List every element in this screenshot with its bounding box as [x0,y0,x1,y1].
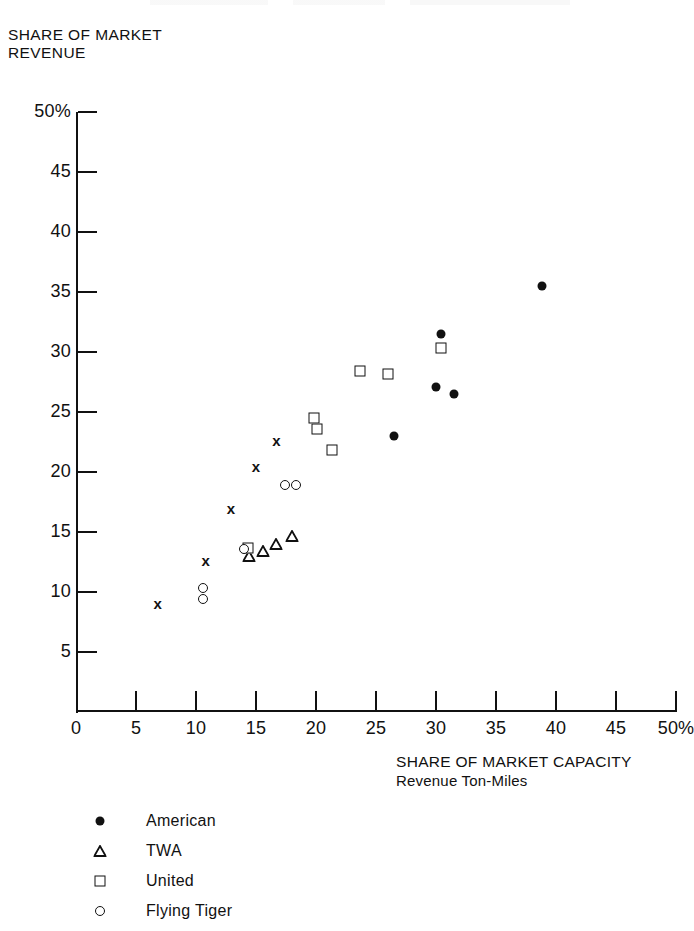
y-tick-label-25: 25 [51,401,71,422]
data-point-flying-tiger-3 [280,480,290,490]
data-point-cross-1: x [200,553,212,566]
x-axis-title: SHARE OF MARKET CAPACITY Revenue Ton-Mil… [396,752,632,790]
y-tick-label-35: 35 [51,281,71,302]
y-tick-label-10: 10 [51,581,71,602]
y-tick-10: 10 [78,591,97,593]
x-tick-35: 35 [495,691,497,710]
x-axis-title-sub: Revenue Ton-Miles [396,771,632,790]
x-tick-label-45: 45 [606,718,626,739]
x-axis-line [76,710,677,712]
data-point-flying-tiger-4 [291,480,301,490]
legend-label: United [146,872,194,890]
data-point-twa-1 [257,545,270,557]
x-tick-label-0: 0 [71,718,81,739]
y-tick-label-15: 15 [51,521,71,542]
data-point-united-6 [435,343,446,354]
y-tick-40: 40 [78,231,97,233]
data-point-united-1 [308,413,319,424]
x-tick-label-50pct: 50% [658,718,694,739]
x-tick-15: 15 [255,691,257,710]
data-point-cross-4: x [270,433,282,446]
y-tick-50pct: 50% [78,111,97,113]
data-point-flying-tiger-0 [198,583,208,593]
y-tick-45: 45 [78,171,97,173]
x-axis-title-main: SHARE OF MARKET CAPACITY [396,752,632,771]
x-tick-10: 10 [195,691,197,710]
x-tick-45: 45 [615,691,617,710]
x-tick-label-25: 25 [366,718,386,739]
y-tick-5: 5 [78,651,97,653]
clipped-caption-artifact [150,0,570,5]
y-tick-label-30: 30 [51,341,71,362]
y-tick-30: 30 [78,351,97,353]
data-point-twa-3 [286,530,299,542]
legend-marker-open-square-icon [95,876,106,887]
x-tick-40: 40 [555,691,557,710]
y-axis-title: SHARE OF MARKET REVENUE [8,26,162,62]
legend-marker-open-circle-icon [95,906,105,916]
data-point-american-2 [432,382,441,391]
data-point-cross-2: x [225,502,237,515]
x-tick-25: 25 [375,691,377,710]
x-tick-50pct: 50% [675,691,677,710]
data-point-twa-2 [270,538,283,550]
x-tick-label-35: 35 [486,718,506,739]
legend-marker-filled-circle-icon [96,817,105,826]
data-point-american-0 [390,432,399,441]
x-tick-20: 20 [315,691,317,710]
y-tick-25: 25 [78,411,97,413]
data-point-cross-3: x [250,460,262,473]
data-point-united-3 [326,445,337,456]
data-point-american-3 [450,390,459,399]
x-tick-label-10: 10 [186,718,206,739]
legend-label: American [146,812,216,830]
data-point-flying-tiger-1 [198,594,208,604]
data-point-cross-0: x [152,596,164,609]
y-tick-35: 35 [78,291,97,293]
x-tick-label-5: 5 [131,718,141,739]
data-point-united-5 [383,368,394,379]
x-tick-label-15: 15 [246,718,266,739]
legend-marker-open-triangle-icon [94,845,107,857]
y-tick-label-20: 20 [51,461,71,482]
y-tick-label-50pct: 50% [34,101,71,122]
data-point-united-4 [355,366,366,377]
x-tick-30: 30 [435,691,437,710]
x-tick-label-30: 30 [426,718,446,739]
y-tick-label-40: 40 [51,221,71,242]
data-point-american-4 [537,282,546,291]
x-tick-label-40: 40 [546,718,566,739]
y-tick-15: 15 [78,531,97,533]
data-point-flying-tiger-2 [239,544,249,554]
x-tick-5: 5 [135,691,137,710]
x-tick-label-20: 20 [306,718,326,739]
legend-label: Flying Tiger [146,902,232,920]
y-tick-label-5: 5 [61,641,71,662]
scatter-plot-area: 5101520253035404550% 0510152025303540455… [76,112,676,712]
y-tick-20: 20 [78,471,97,473]
legend-label: TWA [146,842,182,860]
y-tick-label-45: 45 [51,161,71,182]
data-point-united-2 [312,423,323,434]
data-point-american-1 [436,330,445,339]
